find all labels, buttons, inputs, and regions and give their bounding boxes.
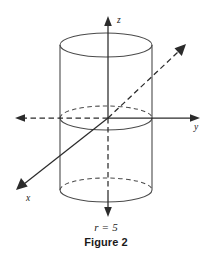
y-axis-negative-arrowhead <box>15 114 25 122</box>
cylinder-top-ellipse <box>60 33 152 57</box>
cylinder-bottom-ellipse-front <box>60 190 152 202</box>
z-axis-group: z <box>104 15 121 217</box>
x-axis-negative-line <box>24 118 108 184</box>
radius-caption: r = 5 <box>0 221 212 233</box>
x-axis-label: x <box>25 193 31 203</box>
figure-diagram: z y x <box>0 0 212 258</box>
z-axis-negative-arrowhead <box>104 207 112 217</box>
z-axis-label: z <box>116 15 121 25</box>
x-axis-positive-line <box>108 52 178 118</box>
x-axis-negative-arrowhead <box>16 178 28 190</box>
z-axis-positive-arrowhead <box>104 16 112 26</box>
x-axis-group: x <box>16 44 186 203</box>
figure-container: z y x r = 5 Figure 2 <box>0 0 212 258</box>
cylinder-bottom-ellipse-back <box>60 178 152 190</box>
figure-caption: Figure 2 <box>0 236 212 248</box>
y-axis-label: y <box>193 122 199 132</box>
cylinder-middle-ellipse-back <box>60 106 152 118</box>
y-axis-positive-arrowhead <box>190 114 200 122</box>
